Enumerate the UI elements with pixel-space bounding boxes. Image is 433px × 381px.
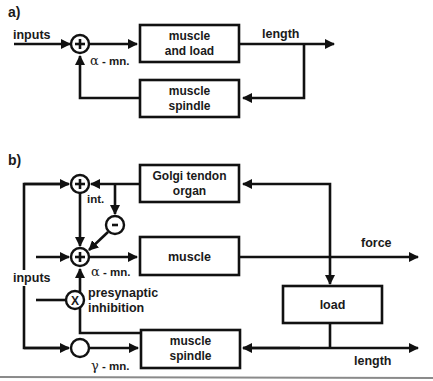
load-block: load bbox=[283, 286, 382, 323]
svg-text:spindle: spindle bbox=[168, 99, 210, 113]
panel-b-length-label: length bbox=[354, 354, 392, 368]
panel-a-alpha-mn-label: α - mn. bbox=[90, 53, 129, 68]
panel-a-muscle-spindle-block: muscle spindle bbox=[140, 80, 239, 117]
int-label: int. bbox=[87, 193, 104, 205]
panel-a: a) inputs α - mn. muscle and load length bbox=[8, 4, 334, 117]
svg-text:X: X bbox=[71, 294, 79, 308]
svg-text:muscle: muscle bbox=[168, 250, 211, 264]
muscle-and-load-block: muscle and load bbox=[140, 25, 239, 62]
panel-a-summing-junction bbox=[71, 35, 89, 53]
inhibition-label: inhibition bbox=[88, 301, 144, 315]
svg-text:and load: and load bbox=[165, 44, 214, 58]
muscle-block: muscle bbox=[140, 237, 239, 275]
panel-b-input-bus bbox=[24, 184, 68, 348]
force-to-golgi-arrow bbox=[243, 184, 330, 257]
panel-b-minus-junction bbox=[106, 216, 124, 234]
svg-text:organ: organ bbox=[173, 184, 206, 198]
panel-b-alpha-summing-junction bbox=[71, 248, 89, 266]
panel-b-inputs-label: inputs bbox=[13, 271, 51, 285]
panel-a-feedback-arrow bbox=[243, 44, 304, 98]
panel-b: b) inputs int. Golgi tendon organ bbox=[8, 152, 418, 373]
golgi-tendon-organ-block: Golgi tendon organ bbox=[140, 165, 239, 202]
gamma-motoneuron-junction bbox=[71, 339, 89, 357]
gamma-mn-label: γ - mn. bbox=[91, 358, 129, 373]
svg-text:Golgi tendon: Golgi tendon bbox=[153, 169, 227, 183]
panel-b-label: b) bbox=[8, 152, 21, 168]
minus-to-alpha-arrow bbox=[89, 232, 108, 250]
bottom-separator bbox=[0, 377, 433, 378]
presynaptic-inhibition-junction: X bbox=[66, 291, 84, 309]
svg-text:muscle: muscle bbox=[170, 334, 212, 348]
panel-b-alpha-mn-label: α - mn. bbox=[91, 264, 130, 279]
svg-text:muscle: muscle bbox=[169, 29, 211, 43]
panel-a-label: a) bbox=[8, 4, 20, 20]
presynaptic-label: presynaptic bbox=[88, 286, 158, 300]
force-label: force bbox=[361, 236, 392, 250]
svg-text:spindle: spindle bbox=[169, 349, 211, 363]
svg-text:load: load bbox=[320, 298, 346, 312]
panel-a-length-label: length bbox=[262, 27, 300, 41]
panel-a-inputs-label: inputs bbox=[13, 28, 51, 42]
svg-text:muscle: muscle bbox=[169, 84, 211, 98]
panel-b-top-summing-junction bbox=[71, 175, 89, 193]
motor-control-block-diagram: a) inputs α - mn. muscle and load length bbox=[0, 0, 433, 381]
panel-b-muscle-spindle-block: muscle spindle bbox=[141, 330, 240, 368]
